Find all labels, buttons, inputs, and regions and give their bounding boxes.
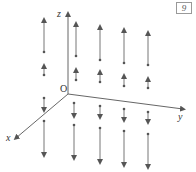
vector-arrow-up <box>43 66 46 76</box>
vector-arrow-up <box>43 20 46 53</box>
vector-arrows <box>43 20 150 167</box>
base-point-dot <box>99 81 102 84</box>
x-axis-label: x <box>6 133 10 143</box>
base-point-dot <box>123 130 126 133</box>
vector-arrow-down <box>123 130 126 165</box>
vector-arrow-up <box>99 27 102 61</box>
base-point-dot <box>75 55 78 58</box>
base-point-dot <box>147 111 150 114</box>
vector-arrow-up <box>147 79 150 89</box>
base-point-dot <box>43 97 46 100</box>
vector-arrow-down <box>43 120 46 155</box>
figure-tag: 9 <box>176 2 192 14</box>
vector-arrow-up <box>75 24 78 57</box>
base-point-dot <box>75 79 78 82</box>
base-point-dot <box>43 74 46 77</box>
z-axis-label: z <box>57 9 61 19</box>
vector-arrow-down <box>123 108 126 120</box>
base-point-dot <box>99 127 102 130</box>
base-point-dot <box>73 124 76 127</box>
base-point-dot <box>73 102 76 105</box>
vector-arrow-down <box>147 133 150 167</box>
axes <box>16 14 183 138</box>
vector-arrow-up <box>147 33 150 66</box>
vector-field-diagram <box>0 0 196 172</box>
base-point-dot <box>99 59 102 62</box>
base-point-dot <box>123 108 126 111</box>
vector-arrow-down <box>43 97 46 110</box>
base-point-dot <box>147 64 150 67</box>
base-point-dot <box>43 51 46 54</box>
base-point-dot <box>123 85 126 88</box>
base-point-dot <box>43 120 46 123</box>
base-point-dot <box>147 87 150 90</box>
x-axis <box>16 94 68 138</box>
base-point-dot <box>99 105 102 108</box>
vector-arrow-up <box>123 30 126 64</box>
vector-arrow-down <box>147 111 150 122</box>
vector-arrow-up <box>99 72 102 83</box>
vector-arrow-down <box>99 105 102 117</box>
y-axis <box>68 94 183 109</box>
vector-arrow-down <box>73 124 76 158</box>
origin-label: O <box>60 84 67 94</box>
vector-arrow-up <box>123 76 126 87</box>
vector-arrow-up <box>75 70 78 81</box>
y-axis-label: y <box>178 112 182 122</box>
base-point-dot <box>147 133 150 136</box>
vector-arrow-down <box>99 127 102 162</box>
vector-arrow-down <box>73 102 76 116</box>
base-point-dot <box>123 62 126 65</box>
